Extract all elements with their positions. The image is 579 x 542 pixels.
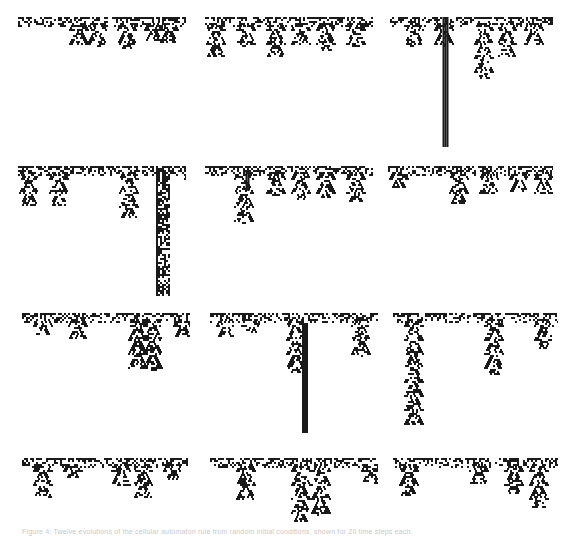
ca-pattern bbox=[22, 313, 190, 443]
ca-pattern bbox=[18, 17, 186, 147]
ca-pattern bbox=[388, 166, 553, 296]
ca-panel-6 bbox=[388, 166, 553, 296]
ca-panel-3 bbox=[388, 17, 553, 147]
ca-pattern bbox=[393, 313, 558, 443]
ca-pattern bbox=[393, 458, 558, 523]
ca-panel-7 bbox=[22, 313, 190, 443]
ca-pattern bbox=[388, 17, 553, 147]
ca-pattern bbox=[210, 458, 378, 523]
figure-caption: Figure 4: Twelve evolutions of the cellu… bbox=[22, 528, 562, 535]
ca-pattern bbox=[205, 166, 373, 296]
ca-panel-10 bbox=[22, 458, 190, 523]
ca-panel-2 bbox=[205, 17, 373, 147]
ca-pattern bbox=[205, 17, 373, 147]
ca-pattern bbox=[22, 458, 190, 523]
figure: Figure 4: Twelve evolutions of the cellu… bbox=[0, 0, 579, 542]
ca-panel-11 bbox=[210, 458, 378, 523]
ca-pattern bbox=[18, 166, 186, 296]
ca-panel-5 bbox=[205, 166, 373, 296]
ca-panel-12 bbox=[393, 458, 558, 523]
ca-panel-1 bbox=[18, 17, 186, 147]
ca-pattern bbox=[210, 313, 378, 443]
ca-panel-8 bbox=[210, 313, 378, 443]
ca-panel-9 bbox=[393, 313, 558, 443]
ca-panel-4 bbox=[18, 166, 186, 296]
